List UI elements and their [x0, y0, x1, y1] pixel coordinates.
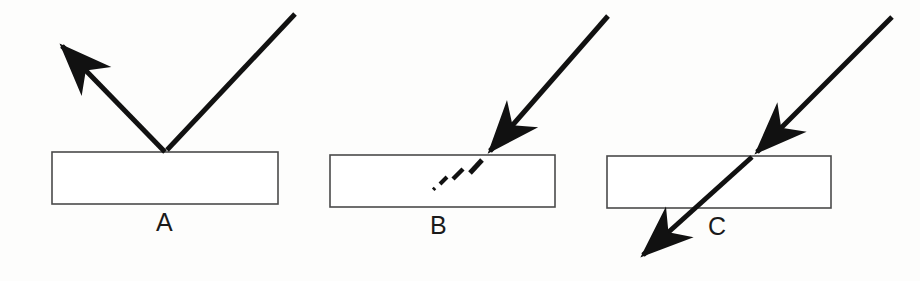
panel-c-label: C	[708, 214, 727, 239]
panel-a-block	[52, 152, 278, 204]
panel-c-incident-ray	[757, 17, 892, 152]
panel-a	[52, 14, 295, 204]
panel-b-label: B	[430, 213, 447, 238]
panel-a-reflected-ray	[62, 46, 165, 152]
panel-b-absorbed-dot	[433, 188, 435, 190]
panel-a-label: A	[156, 210, 173, 235]
panel-a-incident-ray	[167, 14, 295, 150]
panel-c-block	[607, 156, 831, 208]
figure-canvas: A B C	[0, 0, 920, 281]
panel-c	[607, 17, 892, 255]
panel-b-incident-ray	[490, 16, 608, 151]
panel-b	[330, 16, 608, 207]
diagram-svg	[0, 0, 920, 281]
